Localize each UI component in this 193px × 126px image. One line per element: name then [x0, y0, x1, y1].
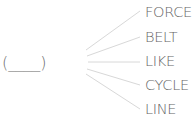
word-like: LIKE [145, 53, 175, 69]
connector-line-line [86, 74, 140, 109]
answer-blank: (____) [2, 53, 46, 72]
connector-line-belt [87, 37, 140, 56]
connector-line-cycle [87, 69, 140, 85]
connector-line-force [86, 11, 140, 50]
word-line: LINE [145, 101, 176, 117]
word-belt: BELT [145, 29, 177, 45]
word-cycle: CYCLE [145, 77, 189, 93]
word-force: FORCE [145, 4, 192, 20]
